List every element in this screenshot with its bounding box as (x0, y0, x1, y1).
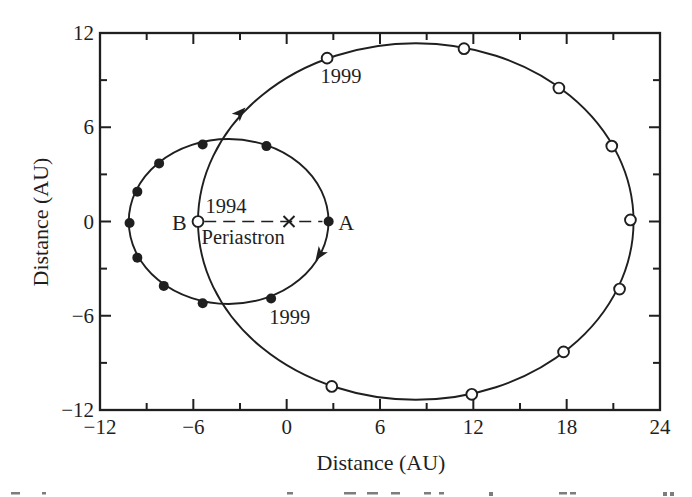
x-axis-title: Distance (AU) (231, 450, 531, 476)
cropped-caption-fragment (391, 492, 400, 495)
star-B-position-marker (606, 141, 617, 152)
cropped-caption-fragment (344, 492, 356, 495)
cropped-caption-fragment (287, 492, 293, 495)
x-tick-label: 6 (375, 415, 386, 439)
x-tick-label: 24 (650, 415, 672, 439)
label-star-A: A (338, 210, 354, 235)
label-periastron: Periastron (202, 226, 285, 248)
cropped-caption-fragment (367, 492, 378, 495)
y-tick-label: 6 (84, 115, 95, 139)
cropped-caption-fragment (424, 492, 431, 495)
cropped-caption-fragment (489, 492, 493, 496)
y-axis-title: Distance (AU) (28, 158, 54, 287)
y-tick-label: −6 (72, 304, 94, 328)
y-tick-label: 0 (84, 210, 95, 234)
star-B-position-marker (459, 43, 470, 54)
star-B-position-marker (326, 381, 337, 392)
x-tick-label: 18 (556, 415, 577, 439)
binary-orbit-chart: −12−606121824−12−6061219991994Periastron… (0, 0, 692, 497)
star-A-position-marker (154, 158, 164, 168)
star-A-position-marker (159, 281, 169, 291)
star-B-position-marker (614, 284, 625, 295)
star-B-position-marker (322, 53, 333, 64)
x-tick-label: 0 (281, 415, 292, 439)
star-A-position-marker (132, 187, 142, 197)
cropped-caption-fragment (11, 492, 20, 495)
cropped-caption-fragment (439, 492, 444, 495)
x-tick-label: −6 (182, 415, 204, 439)
star-B-position-marker (553, 83, 564, 94)
star-A-position-marker (125, 218, 135, 228)
label-1999-orbit-B: 1999 (321, 65, 362, 87)
star-B-position-marker (466, 389, 477, 400)
star-A-position-marker (324, 217, 334, 227)
cropped-caption-fragment (670, 492, 674, 496)
cropped-caption-fragment (570, 492, 576, 495)
orbit-direction-arrow (311, 246, 328, 264)
y-tick-label: 12 (73, 21, 94, 45)
label-1994: 1994 (206, 195, 247, 217)
cropped-caption-fragment (663, 492, 667, 496)
star-A-position-marker (198, 298, 208, 308)
star-B-position-marker (625, 215, 636, 226)
cropped-caption-fragment (42, 492, 46, 495)
y-tick-label: −12 (61, 398, 94, 422)
star-A-position-marker (132, 253, 142, 263)
x-tick-label: 12 (463, 415, 484, 439)
star-A-position-marker (198, 140, 208, 150)
label-star-B: B (172, 210, 187, 235)
star-A-position-marker (261, 141, 271, 151)
cropped-caption-fragment (559, 492, 567, 495)
label-1999-orbit-A: 1999 (269, 306, 310, 328)
star-B-position-marker (558, 346, 569, 357)
orbit-direction-arrow (232, 104, 250, 122)
star-A-position-marker (266, 293, 276, 303)
figure-page: −12−606121824−12−6061219991994Periastron… (0, 0, 692, 497)
